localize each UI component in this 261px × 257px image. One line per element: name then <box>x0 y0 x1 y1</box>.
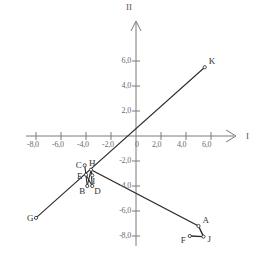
x-tick-label: -4,0 <box>77 140 89 149</box>
point-label-a: A <box>203 215 210 225</box>
data-point-g <box>34 216 37 219</box>
point-label-g: G <box>27 213 34 223</box>
y-tick-label: -8,0 <box>111 231 131 240</box>
point-label-e: E <box>77 171 83 181</box>
y-tick-label: -2,0 <box>111 156 131 165</box>
y-tick-label: 6,0 <box>111 56 131 65</box>
x-tick-label: -8,0 <box>27 140 39 149</box>
data-point-h <box>89 168 92 171</box>
y-tick-label: 2,0 <box>111 106 131 115</box>
point-label-d: D <box>94 186 101 196</box>
point-label-k: K <box>209 56 216 66</box>
data-point-j <box>202 235 205 238</box>
point-label-h: H <box>89 158 96 168</box>
point-label-j: J <box>208 234 212 244</box>
data-point-e <box>84 173 87 176</box>
data-point-c <box>83 164 86 167</box>
y-tick-label: 4,0 <box>111 81 131 90</box>
x-tick-label: 4,0 <box>177 140 186 149</box>
y-tick-label: -6,0 <box>111 206 131 215</box>
data-point-f <box>188 234 191 237</box>
point-label-c: C <box>76 160 82 170</box>
x-tick-label: 6,0 <box>202 140 211 149</box>
y-tick-label: -4,0 <box>111 181 131 190</box>
data-point-k <box>203 66 206 69</box>
coordinate-plot-figure: -8,0-6,0-4,0-2,002,04,06,06,04,02,0-2,0-… <box>0 0 261 257</box>
x-axis-title: I <box>246 131 249 141</box>
point-label-i: I <box>92 176 95 186</box>
line-H-A-J-F <box>91 170 204 237</box>
point-label-b: B <box>79 186 85 196</box>
x-tick-label: -2,0 <box>102 140 114 149</box>
point-label-f: F <box>181 235 186 245</box>
x-tick-label: -6,0 <box>52 140 64 149</box>
x-tick-label: 2,0 <box>152 140 161 149</box>
data-point-b <box>86 184 89 187</box>
x-tick-label: 0 <box>135 140 139 149</box>
data-point-a <box>197 224 200 227</box>
y-axis-title: II <box>126 2 132 12</box>
plot-canvas <box>0 0 261 257</box>
